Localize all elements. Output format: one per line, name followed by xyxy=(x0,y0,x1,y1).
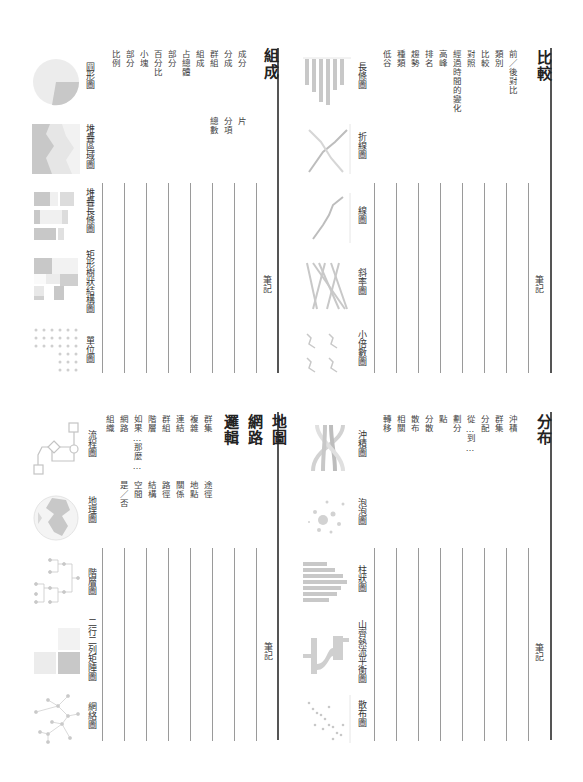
note-line xyxy=(506,183,507,373)
keyword: 點 xyxy=(436,415,447,453)
chart-label-treemap: 矩形樹狀結構圖 xyxy=(84,250,97,313)
chart-label-stacked-bar: 堆疊長條圖 xyxy=(84,188,97,233)
keyword: 群組 xyxy=(159,415,170,471)
keyword: 劃分 xyxy=(450,415,461,453)
keyword: 片 xyxy=(235,117,246,135)
note-line xyxy=(506,548,507,741)
pie-chart-icon xyxy=(32,58,80,106)
note-line xyxy=(124,548,125,741)
keyword-list-distribution: 沖積 群集 分配 從…到… 劃分 點 分散 散布 相關 轉移 xyxy=(380,415,517,453)
stacked-area-icon xyxy=(32,124,80,174)
note-line xyxy=(484,183,485,373)
hierarchy-chart-icon xyxy=(32,558,82,608)
treemap-icon xyxy=(32,256,80,306)
chart-label-slope: 斜率圖 xyxy=(356,268,369,295)
keyword: 分項 xyxy=(221,117,232,135)
note-line xyxy=(528,548,529,741)
note-line xyxy=(440,183,441,373)
note-line xyxy=(374,548,375,741)
keyword: 從…到… xyxy=(464,415,475,453)
section-title-composition: 組成 xyxy=(260,48,281,80)
scatter-plot-icon xyxy=(303,695,351,743)
keyword: 路徑 xyxy=(159,481,170,508)
keyword: 百分比 xyxy=(151,50,162,77)
keyword: 散布 xyxy=(408,415,419,453)
section-title-logic: 邏輯 xyxy=(220,414,241,446)
note-line xyxy=(396,183,397,373)
keyword: 類別 xyxy=(492,50,503,113)
small-multiples-icon xyxy=(303,328,351,378)
note-line xyxy=(146,548,147,741)
keyword: 趨勢 xyxy=(408,50,419,113)
notes-label: 筆記 xyxy=(262,642,275,660)
keyword: 占總體 xyxy=(179,50,190,77)
note-line xyxy=(528,183,529,373)
alluvial-chart-icon xyxy=(303,423,351,473)
keyword: 分散 xyxy=(422,415,433,453)
keyword: 群集 xyxy=(201,415,212,471)
section-title-distribution: 分布 xyxy=(533,414,554,446)
note-line xyxy=(234,548,235,741)
note-line xyxy=(190,548,191,741)
chart-label-matrix: 二行二列矩陣圖 xyxy=(86,618,99,681)
chart-label-line: 線圖 xyxy=(356,206,369,224)
keyword: 種類 xyxy=(394,50,405,113)
line-chart-icon xyxy=(303,193,351,243)
keyword: 比例 xyxy=(109,50,120,77)
keyword: 網路 xyxy=(117,415,128,471)
note-line xyxy=(102,183,103,373)
chart-label-hierarchy: 階層圖 xyxy=(86,568,99,595)
notes-label: 筆記 xyxy=(533,643,546,661)
flowchart-icon xyxy=(32,421,80,475)
section-title-comparison: 比較 xyxy=(533,50,554,82)
note-line xyxy=(234,183,235,373)
chart-label-sankey: 山齊熱流平衡圖 xyxy=(356,620,369,683)
chart-label-bubble: 泡泡圖 xyxy=(356,498,369,525)
note-line xyxy=(462,548,463,741)
keyword: 對照 xyxy=(464,50,475,113)
keyword: 沖積 xyxy=(506,415,517,453)
keyword: 如果…那麼… xyxy=(131,415,142,471)
keyword: 成分 xyxy=(235,50,246,77)
keyword: 低谷 xyxy=(380,50,391,113)
chart-label-polyline: 折線圖 xyxy=(356,132,369,159)
keyword: 分配 xyxy=(478,415,489,453)
keyword: 是／否 xyxy=(117,481,128,508)
chart-label-small-multiples: 小倍數圖 xyxy=(356,330,369,366)
keyword: 連結 xyxy=(173,415,184,471)
keyword: 組織 xyxy=(103,415,114,471)
keyword-list-comparison: 前／後對比 類別 比較 對照 經過時間的變化 高峰 排名 趨勢 種類 低谷 xyxy=(380,50,517,113)
note-line xyxy=(168,183,169,373)
section-title-network: 網路 xyxy=(244,414,265,446)
note-line xyxy=(102,548,103,741)
histogram-icon xyxy=(303,560,351,610)
network-graph-icon xyxy=(34,694,82,744)
keyword: 總數 xyxy=(207,117,218,135)
keyword: 相關 xyxy=(394,415,405,453)
note-line xyxy=(190,183,191,373)
chart-label-bar: 長條圖 xyxy=(356,62,369,89)
section-divider xyxy=(277,48,279,373)
note-line xyxy=(256,183,257,373)
keyword: 複雜 xyxy=(187,415,198,471)
unit-chart-icon xyxy=(32,326,80,376)
keyword: 部分 xyxy=(165,50,176,77)
note-line xyxy=(484,548,485,741)
chart-label-unit: 單位圖 xyxy=(84,336,97,363)
two-by-two-matrix-icon xyxy=(34,626,82,676)
stacked-bar-icon xyxy=(32,190,80,240)
chart-label-flowchart: 流程圖 xyxy=(86,430,99,457)
chart-label-scatter: 散布圖 xyxy=(356,700,369,727)
keyword-list-map: 群集 複雜 連結 群組 階層 如果…那麼… 網路 組織 xyxy=(103,415,212,471)
note-line xyxy=(462,183,463,373)
keyword: 比較 xyxy=(478,50,489,113)
keyword: 高峰 xyxy=(436,50,447,113)
section-title-map: 地圖 xyxy=(268,414,289,446)
note-line xyxy=(146,183,147,373)
keyword-list-map-2: 途徑 地點 關係 路徑 結構 空間 是／否 xyxy=(117,481,212,508)
note-line xyxy=(168,548,169,741)
notes-label: 筆記 xyxy=(533,275,546,293)
section-divider xyxy=(550,48,552,373)
chart-label-geographic: 地理圖 xyxy=(86,496,99,523)
keyword: 群組 xyxy=(207,50,218,77)
